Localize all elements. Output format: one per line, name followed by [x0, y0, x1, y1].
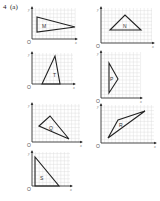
origin-label: O — [27, 39, 31, 45]
x-axis-label: x — [74, 40, 77, 45]
shape-label: Q — [49, 125, 53, 131]
triangle-r — [108, 111, 145, 138]
origin-label: O — [96, 143, 100, 149]
x-axis-label: x — [69, 187, 72, 192]
grid-panel-t: yxOT — [28, 51, 76, 93]
origin-label: O — [27, 186, 31, 192]
shape-label: T — [53, 72, 56, 78]
x-axis-label: x — [72, 85, 75, 90]
x-axis-label: x — [151, 44, 154, 49]
grid-panel-q: yxOQ — [28, 102, 83, 151]
y-axis-label: y — [96, 51, 99, 56]
y-axis-label: y — [96, 7, 99, 12]
y-axis-label: y — [27, 7, 30, 12]
grid-panel-r: yxOR — [97, 103, 157, 152]
axes — [32, 151, 72, 186]
axis-arrow-icon — [31, 6, 78, 40]
axis-arrow-icon — [31, 51, 76, 85]
y-axis-label: y — [96, 104, 99, 109]
shape-label: M — [42, 23, 46, 29]
grid-panel-m: yxOM — [28, 6, 78, 48]
origin-label: O — [96, 43, 100, 49]
grid-lines — [101, 52, 141, 98]
grid-lines — [32, 53, 73, 84]
x-axis-label: x — [79, 143, 82, 148]
axis-arrow-icon — [100, 50, 143, 99]
shape-label: N — [123, 23, 127, 29]
shape-label: R — [119, 122, 123, 128]
grid-lines — [32, 152, 70, 186]
y-axis-label: y — [27, 103, 30, 108]
grid-panel-p: yxOP — [97, 50, 143, 107]
grid-panel-n: yxON — [97, 6, 155, 52]
origin-label: O — [27, 84, 31, 90]
origin-label: O — [27, 142, 31, 148]
axis-arrow-icon — [31, 150, 73, 187]
axes — [32, 7, 77, 39]
grid-lines — [32, 8, 75, 39]
y-axis-label: y — [27, 151, 30, 156]
shape-label: P — [110, 76, 114, 82]
question-label: 4 (a) — [3, 3, 18, 11]
grid-panel-s: yxOS — [28, 150, 73, 195]
shape-label: S — [40, 175, 44, 181]
y-axis-label: y — [27, 52, 30, 57]
x-axis-label: x — [153, 144, 156, 149]
